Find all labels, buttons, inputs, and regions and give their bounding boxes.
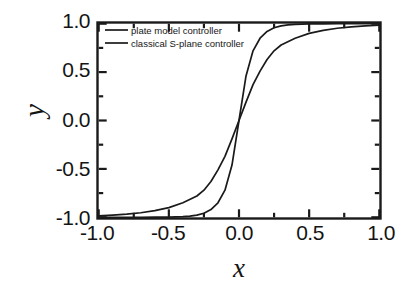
x-tick-label: -0.5 [133, 221, 203, 245]
legend-entry-plate-model: plate model controller [131, 25, 222, 36]
y-tick-label: 0.5 [26, 58, 90, 82]
x-tick-label: 0.0 [204, 221, 274, 245]
x-tick-label: 0.5 [275, 221, 345, 245]
y-tick-label: 0.0 [26, 108, 90, 132]
figure-canvas: y x -1.0 -0.5 0.0 0.5 1.0 1.0 0.5 0.0 -0… [0, 0, 412, 290]
series-line-2 [99, 25, 380, 216]
y-tick-label: -0.5 [26, 157, 90, 181]
x-axis-label: x [97, 255, 381, 282]
y-tick-label: 1.0 [26, 9, 90, 33]
data-curves [99, 24, 380, 218]
legend-line-samples [105, 30, 128, 43]
y-tick-label: -1.0 [26, 206, 90, 230]
x-tick-label: 1.0 [346, 221, 412, 245]
legend-entry-classical-s-plane: classical S-plane controller [131, 38, 244, 49]
